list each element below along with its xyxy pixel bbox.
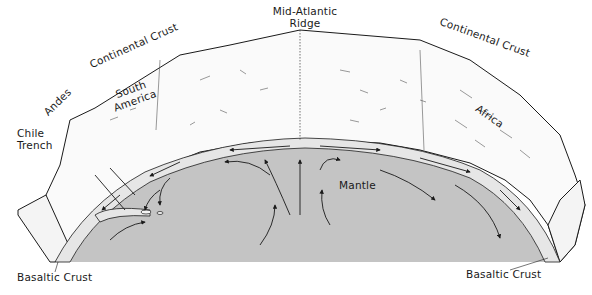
label-mantle: Mantle (339, 180, 376, 192)
label-ridge: Ridge (250, 18, 360, 30)
label-chile: Chile (17, 128, 53, 140)
label-mid-atlantic: Mid-Atlantic (250, 6, 360, 18)
label-basaltic-crust-right: Basaltic Crust (466, 269, 541, 281)
magma-blob-1 (141, 210, 151, 214)
label-mid-atlantic-ridge: Mid-Atlantic Ridge (250, 6, 360, 29)
label-chile-trench: Chile Trench (17, 128, 53, 151)
label-trench: Trench (17, 140, 53, 152)
label-basaltic-crust-left: Basaltic Crust (17, 272, 92, 284)
magma-blob-2 (157, 212, 163, 215)
